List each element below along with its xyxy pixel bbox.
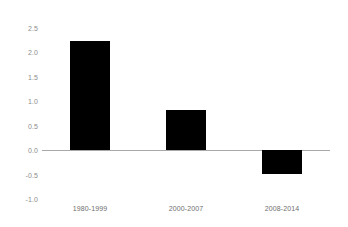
y-tick-label: 0.0 xyxy=(4,147,38,154)
bar xyxy=(166,110,206,150)
y-axis: 2.5 2.0 1.5 1.0 0.5 0.0 -0.5 -1.0 xyxy=(0,0,38,227)
y-tick-label: -0.5 xyxy=(4,171,38,178)
x-axis-category-label: 1980-1999 xyxy=(73,205,107,212)
x-axis-category-label: 2000-2007 xyxy=(169,205,203,212)
y-tick-label: 2.0 xyxy=(4,49,38,56)
y-tick-label: 1.5 xyxy=(4,73,38,80)
y-tick-label: 2.5 xyxy=(4,25,38,32)
x-axis-category-label: 2008-2014 xyxy=(265,205,299,212)
bar xyxy=(262,150,302,173)
bar-chart: 2.5 2.0 1.5 1.0 0.5 0.0 -0.5 -1.0 1980-1… xyxy=(0,0,348,227)
y-tick-label: 0.5 xyxy=(4,122,38,129)
bar xyxy=(70,41,110,150)
plot-area: 1980-1999 2000-2007 2008-2014 xyxy=(42,0,330,227)
y-tick-label: 1.0 xyxy=(4,98,38,105)
y-tick-label: -1.0 xyxy=(4,196,38,203)
